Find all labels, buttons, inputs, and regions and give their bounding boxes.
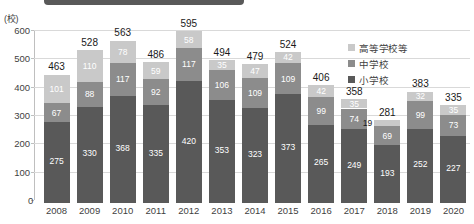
- bar-total-label: 463: [37, 61, 77, 72]
- bar-segment-value-label: 58: [176, 35, 202, 44]
- bar-segment-high-school[interactable]: 42: [308, 85, 334, 97]
- bar-segment-elementary[interactable]: 353: [209, 100, 235, 200]
- bar-segment-value-label: 227: [440, 164, 466, 173]
- bar-segment-high-school[interactable]: 47: [242, 64, 268, 77]
- y-axis-tick-label: 200: [0, 138, 30, 149]
- bar-segment-high-school[interactable]: 59: [143, 62, 169, 79]
- bar-segment-value-label: 69: [374, 131, 400, 140]
- y-axis-unit-label: (校): [4, 12, 18, 25]
- y-axis-tick-label: 400: [0, 81, 30, 92]
- bar-segment-elementary[interactable]: 368: [110, 96, 136, 200]
- bar-segment-value-label: 265: [308, 158, 334, 167]
- y-axis-tick-label: 500: [0, 53, 30, 64]
- bar-segment-value-label: 323: [242, 150, 268, 159]
- gridline: [34, 30, 470, 31]
- bar-segment-elementary[interactable]: 265: [308, 125, 334, 200]
- legend-swatch-high-school-icon: [348, 44, 355, 51]
- bar-segment-value-label: 35: [209, 61, 235, 70]
- bar-segment-value-label: 42: [308, 87, 334, 96]
- bar-segment-high-school[interactable]: 101: [44, 75, 70, 104]
- y-axis-tick: [31, 172, 34, 173]
- bar-segment-elementary[interactable]: 252: [407, 129, 433, 200]
- bar-segment-value-label: 353: [209, 146, 235, 155]
- y-axis-tick-label: 600: [0, 25, 30, 36]
- x-axis: 0 20082009201020112012201320142015201620…: [34, 200, 470, 224]
- bar-segment-high-school[interactable]: 32: [407, 92, 433, 101]
- x-axis-tick-mark: [77, 200, 103, 203]
- y-axis-tick: [31, 30, 34, 31]
- bar-segment-value-label: 35: [440, 106, 466, 115]
- bar-segment-value-label: 373: [275, 143, 301, 152]
- bar-segment-value-label: 47: [242, 67, 268, 76]
- bar-segment-value-label: 19: [352, 119, 372, 128]
- bar-segment-junior-high[interactable]: 106: [209, 70, 235, 100]
- bar-segment-junior-high[interactable]: 73: [440, 115, 466, 136]
- bar-segment-high-school[interactable]: 110: [77, 50, 103, 81]
- bar-segment-value-label: 117: [110, 75, 136, 84]
- x-axis-tick-label: 2020: [433, 205, 473, 216]
- y-axis-tick-label: 300: [0, 110, 30, 121]
- bar-total-label: 479: [235, 51, 275, 62]
- bar-segment-high-school[interactable]: 35: [341, 99, 367, 109]
- x-axis-tick-mark: [440, 200, 466, 203]
- legend-swatch-elementary-icon: [348, 76, 355, 83]
- bar-segment-elementary[interactable]: 330: [77, 107, 103, 201]
- bar-segment-high-school[interactable]: 42: [275, 52, 301, 64]
- bar-segment-high-school[interactable]: 58: [176, 31, 202, 47]
- y-axis-tick-zero: 0: [28, 195, 33, 206]
- bar-segment-value-label: 101: [44, 85, 70, 94]
- chart-screenshot: (校) 100200300400500600275671014633308811…: [0, 0, 474, 224]
- legend-item-junior-high[interactable]: 中学校: [348, 56, 468, 71]
- bar-segment-junior-high[interactable]: 117: [110, 63, 136, 96]
- bar-segment-value-label: 99: [308, 107, 334, 116]
- x-axis-tick-mark: [407, 200, 433, 203]
- bar-segment-value-label: 35: [341, 99, 367, 108]
- bar-segment-junior-high[interactable]: 117: [176, 48, 202, 81]
- legend-item-high-school[interactable]: 高等学校等: [348, 40, 468, 55]
- bar-segment-junior-high[interactable]: 67: [44, 103, 70, 122]
- bar-segment-elementary[interactable]: 373: [275, 94, 301, 200]
- bar-segment-value-label: 88: [77, 90, 103, 99]
- legend-label-elementary: 小学校: [359, 73, 388, 87]
- bar-segment-value-label: 73: [440, 121, 466, 130]
- bar-segment-elementary[interactable]: 420: [176, 81, 202, 200]
- bar-segment-elementary[interactable]: 323: [242, 108, 268, 200]
- legend-label-junior-high: 中学校: [359, 57, 388, 71]
- bar-total-label: 486: [136, 49, 176, 60]
- bar-total-label: 595: [169, 18, 209, 29]
- bar-segment-elementary[interactable]: 227: [440, 136, 466, 200]
- bar-segment-value-label: 252: [407, 160, 433, 169]
- bar-segment-value-label: 330: [77, 149, 103, 158]
- bar-segment-junior-high[interactable]: 99: [308, 97, 334, 125]
- bar-segment-high-school[interactable]: 35: [209, 60, 235, 70]
- bar-segment-value-label: 368: [110, 144, 136, 153]
- y-axis-tick: [31, 58, 34, 59]
- bar-segment-junior-high[interactable]: 99: [407, 101, 433, 129]
- bar-segment-elementary[interactable]: 335: [143, 105, 169, 200]
- bar-segment-high-school[interactable]: 19: [374, 120, 400, 125]
- bar-segment-value-label: 420: [176, 136, 202, 145]
- bar-segment-elementary[interactable]: 275: [44, 122, 70, 200]
- x-axis-tick-mark: [110, 200, 136, 203]
- x-axis-tick-mark: [308, 200, 334, 203]
- bar-segment-junior-high[interactable]: 69: [374, 126, 400, 146]
- bar-segment-value-label: 59: [143, 66, 169, 75]
- bar-segment-junior-high[interactable]: 109: [275, 63, 301, 94]
- bar-segment-value-label: 249: [341, 160, 367, 169]
- y-axis-tick-label: 100: [0, 166, 30, 177]
- bar-total-label: 281: [367, 107, 407, 118]
- bar-segment-elementary[interactable]: 249: [341, 129, 367, 200]
- bar-segment-value-label: 67: [44, 108, 70, 117]
- bar-total-label: 563: [103, 27, 143, 38]
- bar-segment-junior-high[interactable]: 88: [77, 82, 103, 107]
- bar-segment-high-school[interactable]: 78: [110, 41, 136, 63]
- legend-item-elementary[interactable]: 小学校: [348, 72, 468, 87]
- x-axis-tick-mark: [176, 200, 202, 203]
- bar-segment-high-school[interactable]: 35: [440, 105, 466, 115]
- bar-segment-elementary[interactable]: 193: [374, 145, 400, 200]
- bar-total-label: 406: [301, 72, 341, 83]
- bar-segment-junior-high[interactable]: 109: [242, 78, 268, 109]
- window-chrome-bar: [44, 0, 244, 5]
- bar-segment-junior-high[interactable]: 92: [143, 79, 169, 105]
- bar-total-label: 528: [70, 37, 110, 48]
